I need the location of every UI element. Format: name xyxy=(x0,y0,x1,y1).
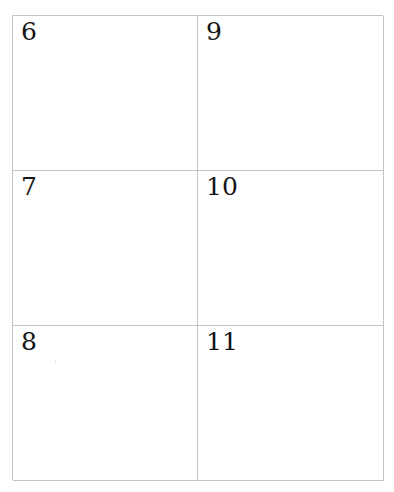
cell-number: 11 xyxy=(206,328,238,356)
grid-cell-11: 11 xyxy=(198,326,384,481)
grid-cell-8: 8 xyxy=(13,326,198,481)
grid-cell-6: 6 xyxy=(13,16,198,171)
cell-number: 7 xyxy=(21,173,37,201)
cell-number: 8 xyxy=(21,328,37,356)
numbered-grid: 6 7 8 9 10 11 xyxy=(12,15,383,480)
cell-number: 6 xyxy=(21,18,37,46)
grid-cell-7: 7 xyxy=(13,171,198,326)
grid-cell-9: 9 xyxy=(198,16,384,171)
cell-number: 10 xyxy=(206,173,238,201)
grid-cell-10: 10 xyxy=(198,171,384,326)
cell-number: 9 xyxy=(206,18,222,46)
scan-speck xyxy=(55,361,56,362)
